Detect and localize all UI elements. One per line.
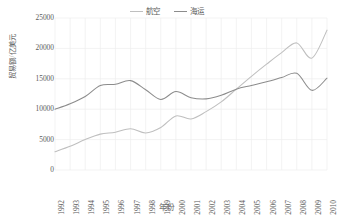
y-tick-label: 15000 [36, 75, 54, 83]
x-axis-tick-labels: 1992199319941995199619971998199920002001… [0, 172, 333, 204]
y-tick-label: 25000 [36, 14, 54, 22]
y-tick-label: 5000 [39, 136, 54, 144]
y-tick-label: 20000 [36, 44, 54, 52]
y-axis-tick-labels: 0500010000150002000025000 [14, 18, 54, 170]
y-axis-title: 贸易额/亿美元 [8, 17, 17, 97]
gridlines [55, 18, 327, 170]
x-axis-title: 年份 [0, 203, 333, 213]
y-tick-label: 10000 [36, 105, 54, 113]
